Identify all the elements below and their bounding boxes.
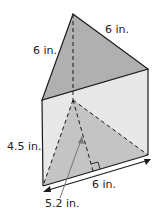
label-top-left-edge: 6 in. <box>33 44 57 57</box>
label-triangle-height: 5.2 in. <box>45 197 80 210</box>
label-height: 4.5 in. <box>7 140 42 153</box>
arrowhead-left-icon <box>43 186 51 192</box>
label-top-right-edge: 6 in. <box>105 23 129 36</box>
label-base-edge: 6 in. <box>92 178 116 191</box>
arrowhead-right-icon <box>144 159 151 165</box>
prism-diagram: 6 in. 6 in. 4.5 in. 6 in. 5.2 in. <box>0 0 162 214</box>
